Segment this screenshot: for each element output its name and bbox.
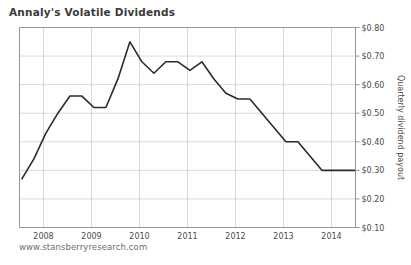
x-axis-tick-label: 2011	[177, 232, 197, 241]
x-axis-tick-label: 2009	[81, 232, 101, 241]
x-axis-tick-label: 2014	[321, 232, 341, 241]
y-axis-title: Quarterly dividend payout	[396, 75, 405, 180]
y-axis-tick-label: $0.60	[362, 81, 385, 90]
y-axis-tick-label: $0.70	[362, 52, 385, 61]
x-axis-tick-label: 2013	[273, 232, 293, 241]
x-axis-tick-label: 2010	[129, 232, 149, 241]
y-axis-tick-label: $0.20	[362, 195, 385, 204]
chart-figure: Annaly's Volatile Dividends $0.80$0.70$0…	[0, 0, 411, 265]
source-url: www.stansberryresearch.com	[19, 242, 147, 252]
x-axis-tick-label: 2008	[33, 232, 53, 241]
y-axis-tick-label: $0.50	[362, 109, 385, 118]
y-axis-tick-label: $0.40	[362, 138, 385, 147]
line-chart-plot: $0.80$0.70$0.60$0.50$0.40$0.30$0.20$0.10…	[0, 0, 411, 265]
y-axis-tick-label: $0.80	[362, 24, 385, 33]
y-axis-tick-label: $0.10	[362, 224, 385, 233]
x-axis-tick-label: 2012	[225, 232, 245, 241]
y-axis-tick-label: $0.30	[362, 166, 385, 175]
